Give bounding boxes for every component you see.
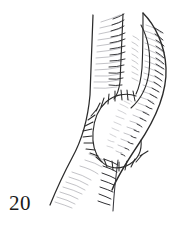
figure-container: 20 [0,0,188,229]
figure-number-label: 20 [9,191,31,215]
